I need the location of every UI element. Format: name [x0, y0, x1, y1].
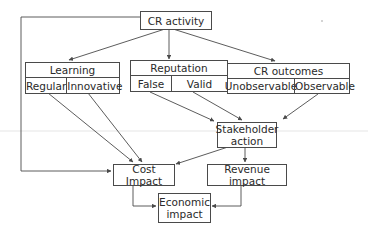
node-stakeholder-action-line2: action	[231, 135, 263, 147]
edge-regular-cost	[48, 93, 133, 162]
node-cr-outcomes-observable: Observable	[294, 79, 355, 94]
node-cost-impact: Cost Impact	[113, 164, 175, 186]
edge-cr-activity-learning	[69, 29, 165, 60]
node-cost-impact-label: Cost Impact	[114, 163, 174, 187]
node-economic-impact-line2: impact	[166, 208, 202, 220]
edge-false-stakeholder	[150, 92, 214, 121]
edge-innovative-cost	[88, 93, 142, 162]
node-reputation-false: False	[131, 76, 171, 91]
node-learning: Learning Regular Innovative	[25, 62, 120, 94]
node-reputation-valid: Valid	[171, 76, 227, 91]
node-cr-activity: CR activity	[140, 11, 212, 30]
edge-stakeholder-cost	[176, 147, 228, 164]
edge-revenue-economic	[212, 185, 241, 206]
node-cr-outcomes: CR outcomes Unobservable Observable	[227, 63, 350, 94]
edge-observable-stakeholder	[283, 94, 318, 119]
node-learning-innovative: Innovative	[66, 78, 122, 93]
node-economic-impact-line1: Economic	[159, 196, 210, 208]
node-cr-outcomes-label: CR outcomes	[228, 64, 349, 79]
node-revenue-impact: Revenue impact	[207, 164, 287, 186]
edge-cr-activity-cost	[21, 17, 140, 171]
node-cr-outcomes-unobservable: Unobservable	[228, 79, 294, 94]
edge-valid-stakeholder	[193, 92, 242, 120]
node-reputation-label: Reputation	[131, 61, 227, 76]
node-cr-activity-label: CR activity	[148, 15, 205, 27]
node-economic-impact: Economic impact	[158, 193, 211, 223]
node-reputation: Reputation False Valid	[130, 60, 228, 92]
node-learning-regular: Regular	[26, 78, 66, 93]
node-stakeholder-action: Stakeholder action	[217, 122, 277, 148]
node-learning-label: Learning	[26, 63, 119, 78]
node-stakeholder-action-line1: Stakeholder	[216, 123, 279, 135]
scan-speck	[321, 20, 322, 21]
edge-cost-economic	[133, 185, 156, 206]
node-revenue-impact-label: Revenue impact	[208, 163, 286, 187]
edge-cr-activity-outcomes	[173, 29, 275, 61]
